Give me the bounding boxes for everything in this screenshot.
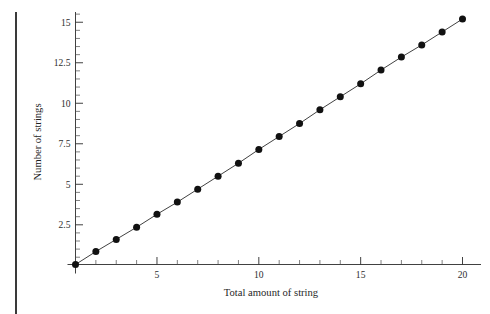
data-point (459, 16, 466, 23)
data-point (92, 248, 99, 255)
figure-container: 51015202.557.51012.515Total amount of st… (0, 0, 490, 314)
y-tick-label: 15 (61, 17, 71, 28)
x-axis-title: Total amount of string (224, 287, 319, 298)
y-tick-label: 2.5 (59, 219, 71, 230)
x-tick-label: 5 (155, 269, 160, 280)
y-tick-label: 5 (66, 179, 71, 190)
data-point (357, 80, 364, 87)
data-point (133, 224, 140, 231)
data-point (255, 146, 262, 153)
data-point (215, 173, 222, 180)
y-tick-label: 10 (61, 98, 71, 109)
data-point (235, 160, 242, 167)
data-point (337, 93, 344, 100)
data-point (153, 211, 160, 218)
data-point (398, 54, 405, 61)
x-tick-label: 15 (356, 269, 366, 280)
data-point (276, 133, 283, 140)
x-tick-label: 20 (458, 269, 468, 280)
data-point (174, 199, 181, 206)
data-point (72, 261, 79, 268)
x-tick-group: 5101520 (76, 257, 468, 280)
data-point (113, 236, 120, 243)
y-tick-group: 2.557.51012.515 (54, 14, 83, 257)
data-point (316, 106, 323, 113)
y-tick-label: 7.5 (59, 138, 71, 149)
data-point (418, 41, 425, 48)
data-point (296, 120, 303, 127)
y-tick-label: 12.5 (54, 57, 71, 68)
data-point (378, 67, 385, 74)
data-point (194, 186, 201, 193)
scatter-plot: 51015202.557.51012.515Total amount of st… (0, 0, 490, 314)
x-tick-label: 10 (254, 269, 264, 280)
axes-group (68, 12, 482, 274)
y-axis-title: Number of strings (32, 103, 43, 180)
data-point (439, 28, 446, 35)
